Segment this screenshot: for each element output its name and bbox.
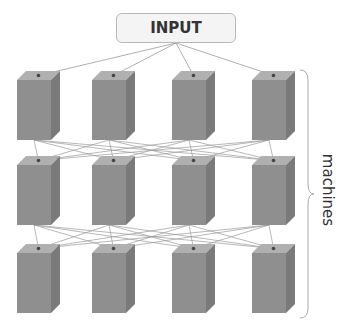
- arrowhead-icon: [37, 159, 41, 163]
- arrowhead-icon: [272, 247, 276, 251]
- machine-box: [252, 80, 286, 140]
- machine-box-side: [126, 244, 135, 313]
- machine-box: [92, 253, 126, 313]
- machine-box: [92, 80, 126, 140]
- machine-box-side: [51, 71, 60, 140]
- diagram-canvas: [0, 0, 358, 326]
- distributed-network-diagram: INPUT machines: [0, 0, 358, 326]
- arrowhead-icon: [272, 74, 276, 78]
- machine-box-side: [51, 156, 60, 225]
- machine-box: [172, 253, 206, 313]
- arrowhead-icon: [192, 159, 196, 163]
- machine-box-side: [286, 156, 295, 225]
- arrowhead-icon: [112, 247, 116, 251]
- arrowhead-icon: [272, 159, 276, 163]
- arrowhead-icon: [112, 159, 116, 163]
- machine-box: [252, 165, 286, 225]
- input-label: INPUT: [150, 19, 202, 37]
- arrowhead-icon: [37, 74, 41, 78]
- machine-box-side: [206, 156, 215, 225]
- arrowhead-icon: [192, 247, 196, 251]
- machine-box-side: [126, 156, 135, 225]
- arrowhead-icon: [37, 247, 41, 251]
- machine-box: [17, 253, 51, 313]
- edge-input-to-row1: [39, 43, 177, 76]
- machine-box: [92, 165, 126, 225]
- machine-box: [172, 165, 206, 225]
- machine-box: [172, 80, 206, 140]
- machine-box-side: [126, 71, 135, 140]
- machine-box-side: [206, 244, 215, 313]
- machine-box-side: [206, 71, 215, 140]
- machine-box-side: [51, 244, 60, 313]
- arrowhead-icon: [192, 74, 196, 78]
- edge-input-to-row1: [114, 43, 177, 76]
- machines-label: machines: [319, 154, 337, 226]
- machine-box: [17, 165, 51, 225]
- input-node: INPUT: [116, 13, 236, 43]
- arrowhead-icon: [112, 74, 116, 78]
- machine-box-side: [286, 71, 295, 140]
- curly-brace-icon: [300, 70, 314, 318]
- machine-box: [252, 253, 286, 313]
- machine-box: [17, 80, 51, 140]
- machine-box-side: [286, 244, 295, 313]
